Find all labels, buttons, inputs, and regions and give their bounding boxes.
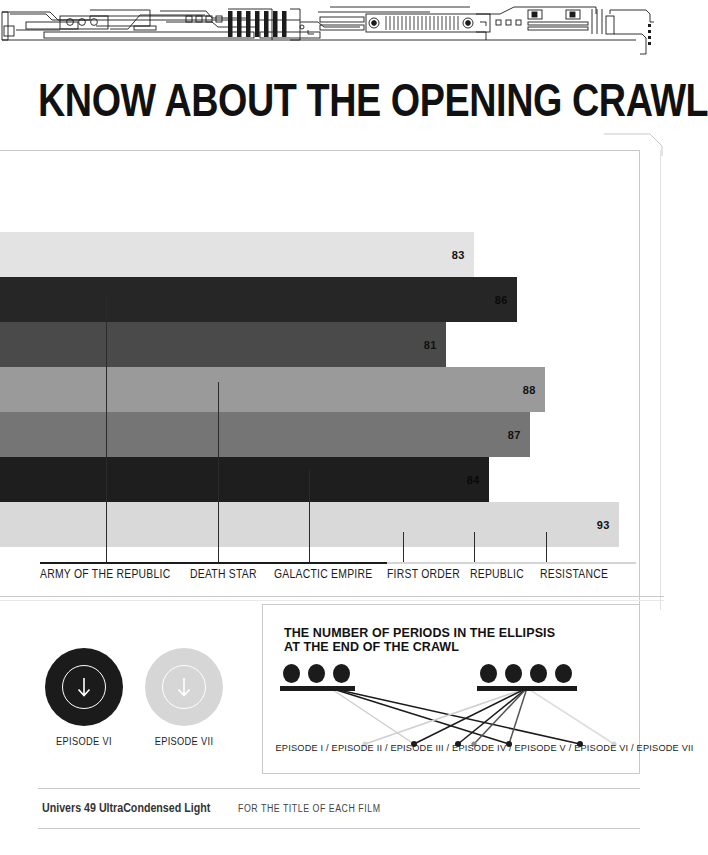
title-band: KNOW ABOUT THE OPENING CRAWL: [0, 62, 664, 154]
axis-category-label: RESISTANCE: [540, 566, 636, 581]
page-title: KNOW ABOUT THE OPENING CRAWL: [38, 72, 708, 128]
axis-label-underline: [387, 562, 483, 564]
footer-note: Univers 49 UltraCondensed Light FOR THE …: [42, 798, 400, 816]
axis-category-label: FIRST ORDER: [387, 566, 483, 581]
ellipsis-dot: [283, 664, 300, 683]
axis-divider-secondary: [0, 600, 664, 601]
episode-circle-caption: EPISODE VI: [45, 735, 122, 747]
footer-divider-top: [38, 788, 640, 789]
axis-label-underline: [540, 562, 636, 564]
episode-circle: [45, 648, 123, 726]
axis-tick: [309, 470, 310, 562]
arrow-down-icon: [162, 665, 206, 709]
episode-circles-group: EPISODE VI EPISODE VII: [38, 648, 248, 768]
arrow-down-icon: [62, 665, 106, 709]
ellipsis-dot: [480, 664, 497, 683]
ellipsis-dot: [555, 664, 572, 683]
episode-axis-labels: EPISODE I / EPISODE II / EPISODE III / E…: [275, 742, 630, 753]
ellipsis-dot: [333, 664, 350, 683]
episode-circle: [145, 648, 223, 726]
episode-circle-item: EPISODE VII: [138, 648, 230, 747]
ellipsis-dot: [505, 664, 522, 683]
episode-circle-caption: EPISODE VII: [145, 735, 222, 747]
axis-tick: [106, 294, 107, 562]
footer-description: FOR THE TITLE OF EACH FILM: [238, 803, 380, 814]
axis-label-underline: [470, 562, 544, 564]
footer-font-name: Univers 49 UltraCondensed Light: [42, 800, 210, 815]
chart-x-axis: ARMY OF THE REPUBLICDEATH STARGALACTIC E…: [0, 556, 664, 590]
ellipsis-dot: [308, 664, 325, 683]
ellipsis-dot: [530, 664, 547, 683]
footer-divider-bottom: [38, 828, 640, 829]
axis-category-label: REPUBLIC: [470, 566, 544, 581]
axis-label-underline: [40, 562, 212, 564]
axis-category-label: ARMY OF THE REPUBLIC: [40, 566, 212, 581]
ellipsis-group-bar: [280, 686, 355, 691]
starwars-tech-panel-graphic: [0, 0, 664, 60]
axis-tick-lines: [0, 232, 664, 562]
axis-divider: [0, 596, 664, 597]
title-divider: [0, 150, 640, 151]
episode-circle-item: EPISODE VI: [38, 648, 130, 747]
ellipsis-group-bar: [477, 686, 577, 691]
axis-tick: [218, 382, 219, 562]
frame-corner-bracket: [604, 132, 664, 156]
